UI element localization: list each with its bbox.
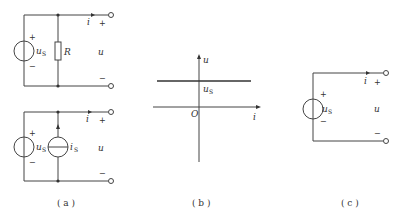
circuit-diagram: + − u S R i + u − + − u S i S i + u −	[0, 0, 403, 222]
figure-a-bottom-circuit: + − u S i S i + u −	[14, 110, 114, 184]
caption-a: ( a )	[57, 198, 75, 208]
current-label: i	[364, 76, 367, 86]
output-plus: +	[99, 116, 106, 125]
minus-sign: −	[29, 62, 36, 71]
output-plus: +	[99, 19, 106, 28]
voltage-label: u	[98, 47, 104, 57]
voltage-label: u	[374, 104, 380, 114]
figure-b-graph: u i O u S	[153, 54, 261, 162]
current-source-sub: S	[74, 146, 78, 153]
plus-sign: +	[29, 129, 36, 138]
source-sub: S	[328, 108, 332, 115]
figure-c-circuit: + − u S i + u −	[303, 71, 389, 144]
resistor-label: R	[63, 47, 71, 57]
current-label: i	[87, 17, 90, 27]
x-axis-label: i	[253, 112, 256, 122]
output-minus: −	[99, 74, 106, 83]
current-source-arrow-icon	[56, 124, 60, 129]
x-axis-arrow-icon	[256, 105, 261, 109]
terminal-icon	[109, 13, 114, 18]
level-sub: S	[209, 88, 213, 95]
source-sub: S	[42, 146, 46, 153]
output-minus: −	[374, 129, 381, 138]
resistor-icon	[55, 42, 61, 60]
source-sub: S	[42, 50, 46, 57]
terminal-icon	[109, 110, 114, 115]
terminal-icon	[109, 179, 114, 184]
figure-a-top-circuit: + − u S R i + u −	[14, 13, 114, 89]
plus-sign: +	[29, 33, 36, 42]
plus-sign: +	[320, 90, 327, 99]
minus-sign: −	[320, 117, 327, 126]
caption-b: ( b )	[192, 198, 211, 208]
caption-c: ( c )	[341, 198, 359, 208]
current-source-label: i	[70, 142, 73, 152]
terminal-icon	[384, 139, 389, 144]
node-dot	[56, 84, 59, 87]
terminal-icon	[109, 84, 114, 89]
minus-sign: −	[29, 158, 36, 167]
current-arrow-icon	[91, 13, 95, 17]
origin-label: O	[191, 109, 199, 119]
output-minus: −	[99, 169, 106, 178]
current-arrow-icon	[366, 71, 370, 75]
terminal-icon	[384, 71, 389, 76]
output-plus: +	[374, 78, 381, 87]
node-dot	[56, 179, 59, 182]
voltage-label: u	[98, 143, 104, 153]
node-dot	[56, 13, 59, 16]
y-axis-arrow-icon	[197, 54, 201, 59]
current-label: i	[86, 114, 89, 124]
y-axis-label: u	[203, 55, 209, 65]
node-dot	[56, 110, 59, 113]
